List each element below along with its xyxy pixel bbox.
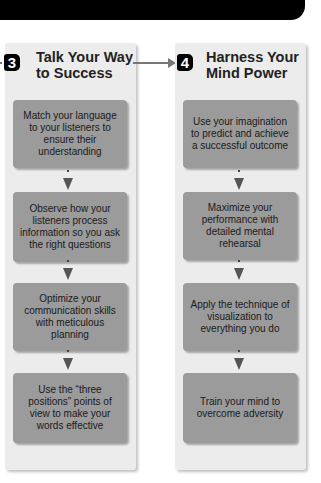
connector-dot <box>67 260 69 262</box>
down-arrow-icon <box>63 178 73 190</box>
step-title: Talk Your Way to Success <box>36 49 133 81</box>
step-box: Observe how your listeners process infor… <box>13 192 127 262</box>
step-box: Train your mind to overcome adversity <box>183 373 297 443</box>
down-arrow-icon <box>234 268 244 280</box>
step-box: Maximize your performance with detailed … <box>183 192 297 260</box>
step-box: Optimize your communication skills with … <box>13 283 127 351</box>
down-arrow-icon <box>63 358 73 370</box>
step-box: Use the “three positions” points of view… <box>13 373 127 443</box>
connector-dot <box>238 260 240 262</box>
step-title-line2: to Success <box>36 65 133 81</box>
connector-arrow-line <box>133 62 170 64</box>
down-arrow-icon <box>234 358 244 370</box>
step-box: Apply the technique of visualization to … <box>183 283 297 351</box>
down-arrow-icon <box>234 178 244 190</box>
incoming-arrow-line <box>0 62 2 64</box>
connector-dot <box>67 170 69 172</box>
header-bar <box>0 0 305 20</box>
step-box: Use your imagination to predict and achi… <box>183 100 297 168</box>
down-arrow-icon <box>63 268 73 280</box>
connector-dot <box>238 170 240 172</box>
step-title-line2: Mind Power <box>206 65 299 81</box>
step-title-line1: Harness Your <box>206 49 299 65</box>
step-number-badge: 4 <box>177 54 193 71</box>
step-title-line1: Talk Your Way <box>36 49 133 65</box>
connector-dot <box>238 350 240 352</box>
step-box: Match your language to your listeners to… <box>13 100 127 168</box>
step-title: Harness Your Mind Power <box>206 49 299 81</box>
step-number-badge: 3 <box>4 54 20 71</box>
connector-dot <box>67 350 69 352</box>
